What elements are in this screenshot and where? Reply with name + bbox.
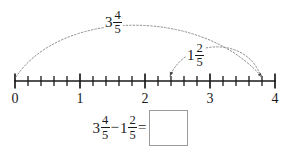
axis-label-2: 2 xyxy=(136,92,154,106)
jump-label-small-fraction: 2 5 xyxy=(195,42,204,70)
equals-sign-icon: = xyxy=(137,120,147,135)
subtrahend-denominator: 5 xyxy=(128,129,136,142)
axis-label-3: 3 xyxy=(201,92,219,106)
jump-label-small-denominator: 5 xyxy=(195,56,203,69)
equation-row: 3 4 5 − 1 2 5 = xyxy=(0,110,281,146)
worksheet-canvas: 3 4 5 1 2 5 0 1 2 3 4 3 4 5 − 1 xyxy=(0,0,281,153)
axis-label-1: 1 xyxy=(71,92,89,106)
jump-label-big: 3 4 5 xyxy=(104,9,123,37)
subtrahend-numerator: 2 xyxy=(128,114,136,127)
equation-subtrahend: 1 2 5 xyxy=(120,114,137,142)
jump-label-big-fraction: 4 5 xyxy=(113,9,122,37)
jump-label-small: 1 2 5 xyxy=(186,42,205,70)
axis-label-0: 0 xyxy=(6,92,24,106)
minuend-whole: 3 xyxy=(93,121,101,136)
minuend-numerator: 4 xyxy=(101,114,109,127)
jump-label-big-whole: 3 xyxy=(105,15,113,30)
answer-input-box[interactable] xyxy=(149,110,188,146)
jump-label-big-numerator: 4 xyxy=(113,9,121,22)
jump-label-small-numerator: 2 xyxy=(195,42,203,55)
axis-label-4: 4 xyxy=(266,92,281,106)
jump-arc-small xyxy=(170,47,261,77)
subtrahend-whole: 1 xyxy=(120,121,128,136)
minuend-fraction: 4 5 xyxy=(101,114,110,142)
subtrahend-fraction: 2 5 xyxy=(128,114,137,142)
jump-label-big-denominator: 5 xyxy=(113,23,121,36)
jump-label-small-whole: 1 xyxy=(187,48,195,63)
minuend-denominator: 5 xyxy=(101,129,109,142)
minus-sign-icon: − xyxy=(110,120,120,135)
equation-minuend: 3 4 5 xyxy=(93,114,110,142)
jump-arc-big xyxy=(16,25,262,77)
